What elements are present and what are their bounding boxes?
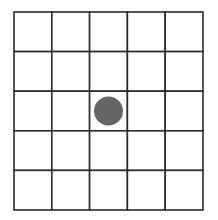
- grid: [13, 11, 204, 211]
- grid-cell[interactable]: [52, 170, 90, 210]
- grid-cell[interactable]: [52, 12, 90, 52]
- grid-cell[interactable]: [165, 52, 203, 92]
- grid-cell[interactable]: [14, 170, 52, 210]
- grid-cell[interactable]: [127, 12, 165, 52]
- grid-cell[interactable]: [90, 131, 128, 171]
- grid-cell[interactable]: [127, 91, 165, 131]
- grid-cell[interactable]: [127, 52, 165, 92]
- stone-piece[interactable]: [94, 97, 123, 126]
- grid-cell[interactable]: [165, 12, 203, 52]
- grid-cell[interactable]: [165, 91, 203, 131]
- grid-cell[interactable]: [14, 91, 52, 131]
- grid-cell[interactable]: [14, 12, 52, 52]
- grid-cell[interactable]: [52, 131, 90, 171]
- grid-cell[interactable]: [14, 131, 52, 171]
- grid-cell[interactable]: [165, 131, 203, 171]
- grid-cell[interactable]: [165, 170, 203, 210]
- grid-cell[interactable]: [14, 52, 52, 92]
- grid-cell[interactable]: [52, 52, 90, 92]
- grid-cell[interactable]: [90, 170, 128, 210]
- game-board: [13, 11, 204, 211]
- grid-cell[interactable]: [127, 170, 165, 210]
- grid-cell[interactable]: [52, 91, 90, 131]
- grid-cell[interactable]: [90, 12, 128, 52]
- grid-cell[interactable]: [127, 131, 165, 171]
- grid-cell[interactable]: [90, 52, 128, 92]
